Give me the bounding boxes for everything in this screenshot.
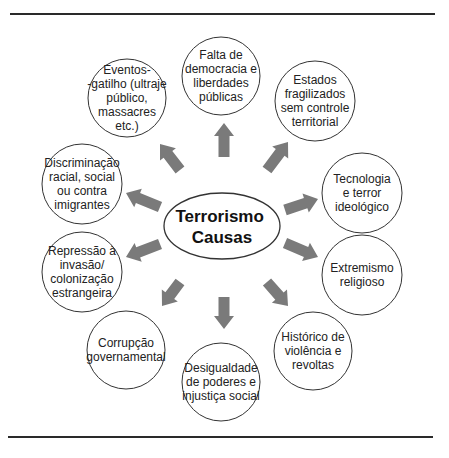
- cause-label: Corrupçãogovernamental: [86, 336, 165, 364]
- cause-label-line: ou contra: [57, 184, 107, 198]
- cause-label-line: liberdades: [193, 76, 248, 90]
- arrow-to-falta-democracia-icon: [214, 123, 234, 157]
- arrow-to-desigualdade-poderes-icon: [214, 297, 234, 329]
- cause-node-tecnologia-terror: Tecnologiae terrorideológico: [322, 153, 402, 233]
- cause-node-extremismo-religioso: Extremismoreligioso: [322, 235, 402, 315]
- cause-label-line: Histórico de: [281, 330, 345, 344]
- diagram-canvas: Falta dedemocracia eliberdadespúblicasEs…: [0, 0, 449, 458]
- center-node: Terrorismo Causas: [164, 193, 280, 259]
- terrorism-causes-diagram: Falta dedemocracia eliberdadespúblicasEs…: [0, 0, 449, 458]
- cause-label-line: Falta de: [199, 48, 243, 62]
- arrow-to-eventos-gatilho-icon: [160, 144, 184, 173]
- cause-label-line: Desigualdade: [184, 361, 258, 375]
- cause-label-line: violência e: [285, 344, 342, 358]
- cause-label-line: colonização: [50, 272, 114, 286]
- cause-label-line: público,: [106, 91, 147, 105]
- cause-label-line: imigrantes: [54, 198, 109, 212]
- cause-label-line: injustiça social: [182, 389, 259, 403]
- cause-label-line: Discriminação: [44, 156, 120, 170]
- cause-label-line: -gatilho (ultraje: [87, 77, 167, 91]
- cause-node-discriminacao: Discriminaçãoracial, socialou contraimig…: [42, 144, 122, 224]
- arrow-to-discriminacao-icon: [126, 189, 162, 212]
- cause-label-line: públicas: [199, 90, 243, 104]
- arrow-to-extremismo-religioso-icon: [283, 238, 318, 261]
- arrow-to-historico-violencia-icon: [263, 278, 288, 306]
- cause-label-line: estrangeira: [52, 286, 112, 300]
- cause-label-line: Tecnologia: [333, 172, 391, 186]
- cause-label-line: racial, social: [49, 170, 115, 184]
- cause-label-line: invasão/: [60, 258, 105, 272]
- cause-node-historico-violencia: Histórico deviolência erevoltas: [274, 312, 352, 390]
- cause-label-line: ideológico: [335, 200, 389, 214]
- cause-label-line: Corrupção: [98, 336, 154, 350]
- arrow-to-tecnologia-terror-icon: [283, 194, 318, 216]
- arrow-to-estados-fragilizados-icon: [263, 142, 289, 173]
- cause-label-line: de poderes e: [186, 375, 256, 389]
- cause-label-line: etc.): [115, 119, 138, 133]
- cause-node-falta-democracia: Falta dedemocracia eliberdadespúblicas: [182, 37, 260, 115]
- cause-label-line: governamental: [86, 350, 165, 364]
- cause-label-line: massacres: [98, 105, 156, 119]
- cause-node-estados-fragilizados: Estadosfragilizadossem controleterritori…: [275, 61, 355, 141]
- cause-label-line: Estados: [293, 73, 336, 87]
- cause-node-desigualdade-poderes: Desigualdadede poderes einjustiça social: [182, 343, 260, 421]
- cause-label-line: fragilizados: [285, 87, 346, 101]
- cause-label-line: Repressão à: [48, 244, 116, 258]
- center-ellipse: [164, 193, 280, 259]
- cause-node-eventos-gatilho: Eventos--gatilho (ultrajepúblico,massacr…: [87, 59, 167, 137]
- center-subtitle-line: Causas: [192, 228, 252, 247]
- cause-label: Repressão àinvasão/colonizaçãoestrangeir…: [48, 244, 116, 300]
- cause-label-line: democracia e: [185, 62, 257, 76]
- cause-label-line: Extremismo: [330, 261, 394, 275]
- cause-label-line: e terror: [343, 186, 382, 200]
- center-title-line: Terrorismo: [175, 207, 264, 226]
- cause-label-line: sem controle: [281, 101, 350, 115]
- arrow-to-corrupcao-governamental-icon: [162, 279, 185, 306]
- arrow-to-repressao-invasao-icon: [126, 239, 162, 262]
- cause-label-line: revoltas: [292, 358, 334, 372]
- cause-label-line: religioso: [340, 275, 385, 289]
- cause-label-line: Eventos-: [103, 63, 150, 77]
- cause-label: Desigualdadede poderes einjustiça social: [182, 361, 259, 403]
- cause-label-line: territorial: [292, 115, 339, 129]
- cause-node-corrupcao-governamental: Corrupçãogovernamental: [86, 311, 165, 389]
- cause-node-repressao-invasao: Repressão àinvasão/colonizaçãoestrangeir…: [42, 232, 122, 312]
